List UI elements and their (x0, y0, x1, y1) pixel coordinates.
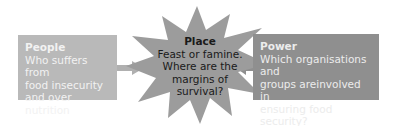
power-line: ensuring food security? (260, 103, 372, 127)
people-line: food insecurity (25, 79, 110, 92)
place-line: Where are the (148, 60, 252, 73)
people-line: Who suffers from (25, 54, 110, 79)
place-text: Place Feast or famine. Where are the mar… (148, 35, 252, 98)
place-title: Place (148, 35, 252, 48)
place-line: margins of (148, 73, 252, 86)
power-line: Which organisations and (260, 53, 372, 78)
power-title: Power (260, 40, 372, 53)
people-box: People Who suffers from food insecurity … (18, 35, 117, 100)
people-title: People (25, 41, 110, 54)
power-line: groups areinvolved in (260, 78, 372, 103)
place-line: Feast or famine. (148, 48, 252, 61)
place-line: survival? (148, 85, 252, 98)
power-box: Power Which organisations and groups are… (253, 34, 379, 100)
people-line: and over nutrition (25, 91, 110, 116)
